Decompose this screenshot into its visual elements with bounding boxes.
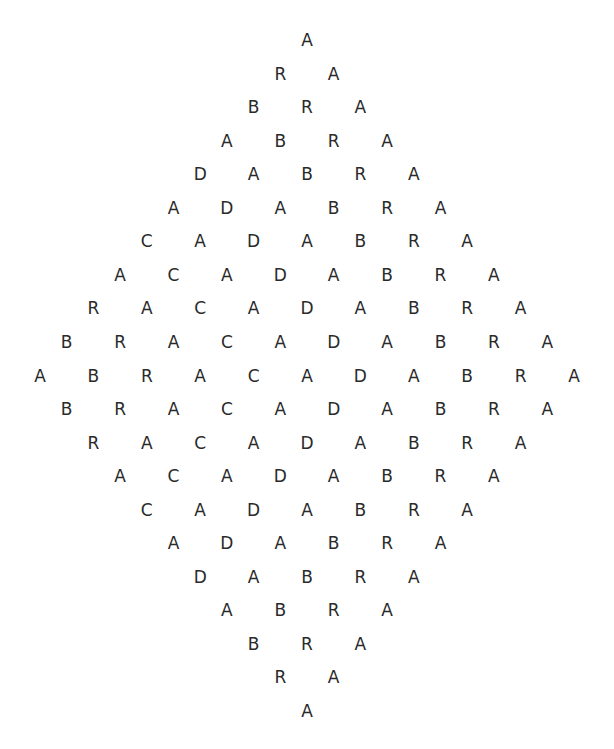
diamond-letter: A <box>532 397 562 421</box>
diamond-letter: A <box>452 229 482 253</box>
diamond-letter: R <box>452 431 482 455</box>
diamond-letter: A <box>265 330 295 354</box>
diamond-letter: A <box>559 364 589 388</box>
diamond-letter: R <box>506 364 536 388</box>
diamond-letter: R <box>399 498 429 522</box>
diamond-letter: A <box>426 196 456 220</box>
diamond-letter: A <box>292 498 322 522</box>
diamond-letter: B <box>239 632 269 656</box>
diamond-letter: B <box>52 330 82 354</box>
diamond-letter: B <box>426 330 456 354</box>
diamond-letter: A <box>292 364 322 388</box>
diamond-letter: A <box>265 531 295 555</box>
diamond-letter: D <box>212 196 242 220</box>
diamond-letter: A <box>25 364 55 388</box>
diamond-letter: R <box>78 431 108 455</box>
diamond-letter: R <box>372 531 402 555</box>
diamond-letter: A <box>372 129 402 153</box>
diamond-letter: B <box>426 397 456 421</box>
diamond-letter: D <box>185 162 215 186</box>
diamond-letter: R <box>292 95 322 119</box>
diamond-letter: A <box>319 665 349 689</box>
diamond-letter: B <box>292 162 322 186</box>
diamond-letter: A <box>239 565 269 589</box>
diamond-letter: R <box>452 296 482 320</box>
diamond-letter: A <box>265 196 295 220</box>
diamond-letter: B <box>319 196 349 220</box>
diamond-letter: D <box>239 229 269 253</box>
diamond-letter: D <box>239 498 269 522</box>
diamond-letter: B <box>265 598 295 622</box>
diamond-letter: A <box>319 62 349 86</box>
diamond-letter: D <box>212 531 242 555</box>
diamond-letter: R <box>426 464 456 488</box>
diamond-letter: R <box>132 364 162 388</box>
diamond-letter: A <box>399 162 429 186</box>
diamond-letter: A <box>132 296 162 320</box>
diamond-letter: R <box>345 565 375 589</box>
diamond-letter: B <box>372 263 402 287</box>
diamond-letter: A <box>105 263 135 287</box>
diamond-letter: B <box>292 565 322 589</box>
diamond-letter: R <box>292 632 322 656</box>
diamond-letter: R <box>265 62 295 86</box>
diamond-letter: A <box>345 296 375 320</box>
diamond-letter: A <box>132 431 162 455</box>
diamond-letter: B <box>265 129 295 153</box>
diamond-letter: B <box>78 364 108 388</box>
diamond-letter: A <box>479 464 509 488</box>
diamond-letter: B <box>239 95 269 119</box>
diamond-letter: A <box>239 296 269 320</box>
diamond-letter: C <box>212 397 242 421</box>
diamond-letter: A <box>212 263 242 287</box>
diamond-letter: A <box>265 397 295 421</box>
diamond-letter: A <box>292 699 322 723</box>
diamond-letter: A <box>212 464 242 488</box>
diamond-letter: B <box>452 364 482 388</box>
diamond-letter: C <box>239 364 269 388</box>
diamond-letter: A <box>185 498 215 522</box>
diamond-letter: A <box>239 431 269 455</box>
diamond-letter: C <box>132 229 162 253</box>
diamond-letter: A <box>105 464 135 488</box>
diamond-letter: A <box>212 598 242 622</box>
diamond-letter: A <box>372 598 402 622</box>
diamond-letter: A <box>426 531 456 555</box>
diamond-letter: A <box>212 129 242 153</box>
diamond-letter: A <box>159 330 189 354</box>
diamond-letter: A <box>292 229 322 253</box>
diamond-letter: D <box>292 296 322 320</box>
diamond-letter: D <box>292 431 322 455</box>
diamond-letter: D <box>319 397 349 421</box>
diamond-letter: B <box>319 531 349 555</box>
diamond-letter: R <box>426 263 456 287</box>
diamond-letter: A <box>452 498 482 522</box>
diamond-letter: A <box>506 296 536 320</box>
diamond-letter: B <box>52 397 82 421</box>
diamond-letter: R <box>479 397 509 421</box>
diamond-letter: A <box>532 330 562 354</box>
diamond-letter: R <box>78 296 108 320</box>
diamond-letter: R <box>372 196 402 220</box>
diamond-letter: B <box>345 498 375 522</box>
diamond-letter: A <box>159 196 189 220</box>
diamond-letter: A <box>185 364 215 388</box>
diamond-letter: R <box>265 665 295 689</box>
diamond-letter: R <box>105 330 135 354</box>
diamond-letter: A <box>292 28 322 52</box>
diamond-letter: A <box>159 397 189 421</box>
diamond-letter: A <box>506 431 536 455</box>
diamond-letter: A <box>159 531 189 555</box>
diamond-letter: R <box>319 129 349 153</box>
diamond-letter: D <box>345 364 375 388</box>
diamond-letter: B <box>372 464 402 488</box>
diamond-letter: C <box>185 431 215 455</box>
diamond-letter: R <box>399 229 429 253</box>
diamond-letter: B <box>345 229 375 253</box>
diamond-letter: C <box>132 498 162 522</box>
diamond-letter: A <box>345 95 375 119</box>
diamond-letter: C <box>159 263 189 287</box>
diamond-letter: C <box>185 296 215 320</box>
diamond-letter: R <box>319 598 349 622</box>
letter-diamond: ARABRAABRADABRAADABRACADABRAACADABRARACA… <box>0 0 614 749</box>
